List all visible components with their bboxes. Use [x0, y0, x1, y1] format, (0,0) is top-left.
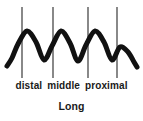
waveform-plot — [0, 0, 143, 80]
figure-title: Long — [0, 100, 143, 112]
segment-label-middle: middle — [47, 80, 80, 91]
segment-label-proximal: proximal — [85, 80, 127, 91]
segment-label-distal: distal — [15, 80, 42, 91]
waveform-figure: distal middle proximal Long — [0, 0, 143, 121]
segment-label-row: distal middle proximal — [0, 80, 143, 91]
